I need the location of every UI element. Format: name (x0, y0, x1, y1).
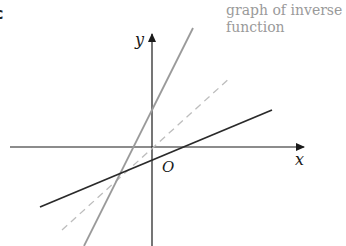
x-axis-label: x (295, 152, 304, 168)
function-line (40, 110, 272, 207)
y-axis-label: y (135, 32, 144, 48)
mirror-line-y-equals-x (62, 77, 231, 230)
inverse-function-line (84, 28, 193, 246)
inverse-function-annotation: graph of inverse function (226, 2, 346, 36)
origin-label: O (162, 160, 174, 175)
annotation-line-1: graph of inverse (226, 2, 346, 19)
annotation-line-2: function (226, 19, 346, 36)
